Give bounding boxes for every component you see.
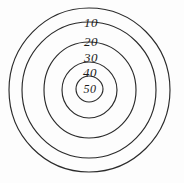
ring-label-50: 50 (84, 83, 97, 95)
ring-label-30: 30 (84, 51, 98, 64)
ring-label-20: 20 (84, 35, 98, 48)
ring-label-10: 10 (84, 16, 98, 29)
ring-label-40: 40 (83, 66, 97, 79)
target-diagram: 10 20 30 40 50 (0, 0, 184, 183)
